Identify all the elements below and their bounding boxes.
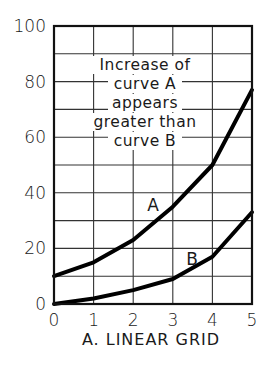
annotation-line: appears (112, 94, 178, 112)
x-axis-ticks: 012345 (49, 310, 258, 330)
y-tick-label: 60 (24, 127, 46, 147)
x-tick-label: 4 (207, 310, 218, 330)
x-tick-label: 2 (128, 310, 139, 330)
chart-caption: A. LINEAR GRID (82, 330, 220, 349)
annotation-line: curve B (114, 132, 177, 150)
y-axis-ticks: 020406080100 (14, 16, 46, 314)
y-tick-label: 0 (35, 294, 46, 314)
x-tick-label: 3 (167, 310, 178, 330)
y-tick-label: 20 (24, 238, 46, 258)
linear-grid-chart: 020406080100 012345 Increase ofcurve Aap… (0, 0, 274, 365)
x-tick-label: 0 (49, 310, 60, 330)
annotation-line: Increase of (100, 56, 191, 74)
annotation-line: greater than (93, 113, 196, 131)
curve-b (54, 212, 252, 304)
annotation-line: curve A (114, 75, 176, 93)
label-curve-a: A (147, 195, 159, 215)
x-tick-label: 1 (88, 310, 99, 330)
y-tick-label: 40 (24, 183, 46, 203)
label-curve-b: B (186, 249, 198, 269)
y-tick-label: 100 (14, 16, 46, 36)
x-tick-label: 5 (247, 310, 258, 330)
y-tick-label: 80 (24, 72, 46, 92)
